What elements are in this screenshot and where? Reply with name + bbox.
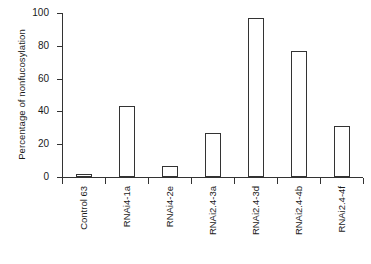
y-tick-label-40: 40 [38,106,49,116]
x-tick-5 [277,178,278,184]
y-tick-label-20: 20 [38,139,49,149]
bar-rnai2-4-3a [205,133,221,177]
bar-rnai4-2e [162,166,178,177]
y-tick-label-60: 60 [38,74,49,84]
bar-rnai2-4-4f [334,126,350,177]
x-axis-label-rnai4-2e: RNAi4-2e [165,186,175,227]
y-axis-title: Percentage of nonfucosylation [16,5,27,185]
x-tick-4 [234,178,235,184]
bar-rnai2-4-4b [291,51,307,177]
x-tick-1 [105,178,106,184]
x-tick-0 [62,178,63,184]
x-axis-label-rnai2-4-4f: RNAi2.4-4f [337,186,347,232]
y-tick-60: 60 [57,79,62,80]
y-tick-label-100: 100 [32,8,49,18]
plot-area: 020406080100 [62,13,363,177]
bar-control-63 [76,174,92,177]
x-label-slot-4: RNAi2.4-3d [234,186,277,264]
x-axis-label-rnai2-4-4b: RNAi2.4-4b [294,186,304,235]
y-tick-40: 40 [57,111,62,112]
y-tick-100: 100 [57,13,62,14]
y-tick-80: 80 [57,46,62,47]
x-tick-7 [363,178,364,184]
x-label-slot-5: RNAi2.4-4b [277,186,320,264]
y-tick-label-80: 80 [38,41,49,51]
x-tick-2 [148,178,149,184]
bar-rnai4-1a [119,106,135,177]
bar-chart-figure: Percentage of nonfucosylation 0204060801… [0,0,371,264]
x-label-slot-1: RNAi4-1a [105,186,148,264]
x-axis-label-rnai4-1a: RNAi4-1a [122,186,132,227]
x-axis-label-rnai2-4-3a: RNAi2.4-3a [208,186,218,235]
x-axis-category-labels: Control 63RNAi4-1aRNAi4-2eRNAi2.4-3aRNAi… [62,186,363,264]
x-axis-line [62,177,363,178]
x-axis-label-rnai2-4-3d: RNAi2.4-3d [251,186,261,235]
y-axis-line [62,13,63,178]
x-label-slot-2: RNAi4-2e [148,186,191,264]
x-tick-3 [191,178,192,184]
x-label-slot-3: RNAi2.4-3a [191,186,234,264]
bar-rnai2-4-3d [248,18,264,177]
y-tick-label-0: 0 [43,172,49,182]
x-label-slot-6: RNAi2.4-4f [320,186,363,264]
x-tick-6 [320,178,321,184]
y-tick-20: 20 [57,144,62,145]
x-label-slot-0: Control 63 [62,186,105,264]
x-axis-label-control-63: Control 63 [79,186,89,230]
